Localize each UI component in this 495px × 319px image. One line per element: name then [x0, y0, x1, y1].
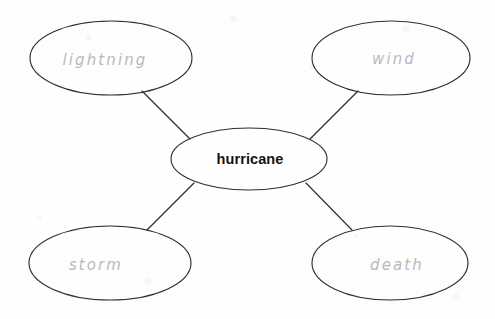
connector-center-to-lightning — [142, 91, 190, 139]
connector-center-to-death — [306, 183, 352, 230]
node-ellipse-lightning[interactable] — [30, 21, 192, 95]
node-ellipse-death[interactable] — [312, 226, 468, 300]
node-ellipse-hurricane[interactable] — [171, 128, 327, 190]
node-ellipse-wind[interactable] — [312, 21, 470, 95]
word-web-canvas — [0, 0, 495, 319]
word-web-diagram-page: lightning wind storm death hurricane — [0, 0, 495, 319]
connector-center-to-wind — [310, 91, 358, 139]
node-ellipse-storm[interactable] — [29, 226, 191, 300]
connector-center-to-storm — [147, 183, 194, 230]
